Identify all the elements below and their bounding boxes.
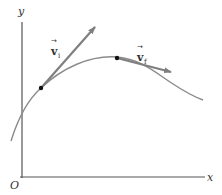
initial-velocity-arrow — [41, 27, 95, 88]
final-point — [115, 56, 119, 60]
vector-symbol: v — [50, 45, 58, 58]
x-axis-label: x — [207, 171, 214, 184]
final-velocity-label: → v f — [136, 43, 148, 66]
initial-point — [39, 86, 43, 90]
vector-arrow-icon: → — [137, 43, 143, 51]
vector-subscript: i — [58, 52, 61, 60]
y-axis-label: y — [17, 5, 25, 18]
origin-label: O — [10, 179, 19, 192]
velocity-diagram: y x O → v i → v f — [0, 0, 222, 195]
trajectory-curve — [11, 57, 203, 141]
initial-velocity-label: → v i — [50, 37, 61, 60]
vector-symbol: v — [136, 51, 144, 64]
vector-arrow-icon: → — [51, 37, 57, 45]
